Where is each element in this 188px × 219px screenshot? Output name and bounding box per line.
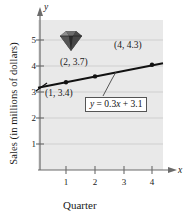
y-tick-label-2: 2: [27, 113, 36, 123]
y-tick-label-1: 1: [27, 139, 36, 149]
y-tick-label-5: 5: [27, 35, 36, 45]
y-tick-label-4: 4: [27, 61, 36, 71]
x-axis-title: Quarter: [63, 199, 97, 211]
y-tick-label-3: 3: [27, 87, 36, 97]
data-point: [64, 80, 68, 84]
x-tick-label-2: 2: [90, 177, 100, 187]
data-point: [150, 63, 154, 67]
x-tick-label-3: 3: [119, 177, 129, 187]
x-tick-label-1: 1: [61, 177, 71, 187]
equation-tail: + 3.1: [120, 99, 142, 109]
x-axis-letter: x: [178, 165, 182, 175]
data-point-label-2: (2, 3.7): [60, 57, 88, 67]
data-point: [93, 74, 97, 78]
y-axis-letter: y: [44, 2, 48, 12]
equation-callout: y = 0.3x + 3.1: [85, 97, 147, 112]
x-tick-label-4: 4: [147, 177, 157, 187]
equation-middle: = 0.3: [94, 99, 116, 109]
y-axis-title: Sales (in millions of dollars): [8, 29, 19, 179]
data-point-label-1: (1, 3.4): [45, 88, 73, 98]
data-point-label-3: (4, 4.3): [114, 40, 142, 50]
